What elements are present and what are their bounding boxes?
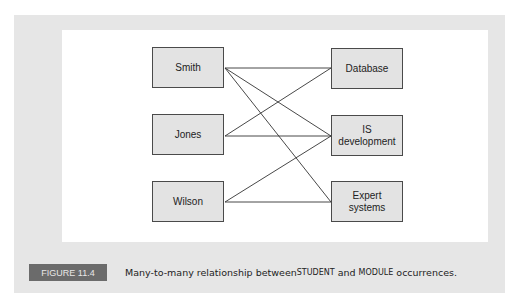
figure-number-badge: FIGURE 11.4 <box>29 264 107 281</box>
student-box-smith: Smith <box>152 47 224 88</box>
caption-text: Many-to-many relationship between <box>125 267 297 278</box>
student-box-wilson: Wilson <box>152 181 224 222</box>
student-label: Smith <box>175 62 201 74</box>
student-label: Wilson <box>173 196 203 208</box>
link-wilson-is-development <box>225 136 331 202</box>
student-box-jones: Jones <box>152 114 224 155</box>
student-label: Jones <box>175 129 202 141</box>
caption-entity-module: MODULE <box>359 268 394 277</box>
link-smith-expert-systems <box>225 68 331 202</box>
module-label: IS development <box>336 124 398 148</box>
module-box-database: Database <box>331 48 403 89</box>
caption-entity-student: STUDENT <box>297 268 335 277</box>
module-label: Database <box>346 63 389 75</box>
caption-text: and <box>335 267 359 278</box>
caption-text: occurrences. <box>393 267 457 278</box>
module-label: Expert systems <box>342 190 392 214</box>
module-box-expert-systems: Expert systems <box>331 181 403 222</box>
module-box-is-development: IS development <box>331 115 403 156</box>
figure-caption: Many-to-many relationship between STUDEN… <box>125 264 457 281</box>
relationship-lines <box>0 0 522 304</box>
